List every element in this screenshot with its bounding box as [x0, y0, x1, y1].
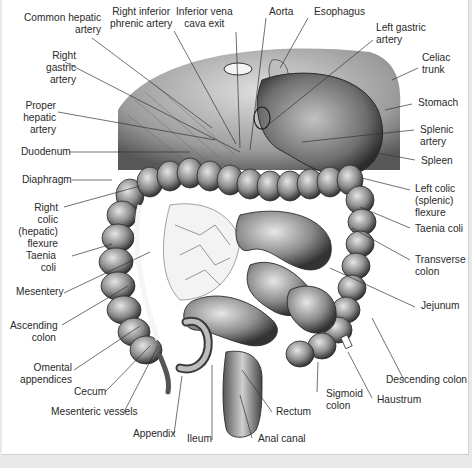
- label-right-colic-flexure: Right colic (hepatic) flexure: [12, 202, 58, 250]
- label-duodenum: Duodenum: [21, 146, 71, 158]
- label-splenic-artery: Splenic artery: [420, 124, 453, 148]
- label-right-inferior-phrenic-artery: Right inferior phrenic artery: [110, 6, 172, 30]
- label-diaphragm: Diaphragm: [22, 174, 72, 186]
- descending-colon-shape: [286, 186, 376, 367]
- label-celiac-trunk: Celiac trunk: [422, 52, 450, 76]
- label-left-gastric-artery: Left gastric artery: [376, 22, 426, 46]
- label-rectum: Rectum: [276, 406, 311, 418]
- label-haustrum: Haustrum: [377, 394, 421, 406]
- label-spleen: Spleen: [421, 155, 453, 167]
- anatomy-figure: Common hepatic artery Right inferior phr…: [0, 0, 472, 468]
- rectum-shape: [223, 351, 262, 437]
- ascending-colon-shape: [99, 201, 162, 364]
- label-anal-canal: Anal canal: [258, 433, 306, 445]
- label-aorta: Aorta: [269, 6, 293, 18]
- label-right-gastric-artery: Right gastric artery: [30, 50, 76, 86]
- label-sigmoid-colon: Sigmoid colon: [326, 388, 363, 412]
- label-common-hepatic-artery: Common hepatic artery: [24, 12, 101, 36]
- label-cecum: Cecum: [74, 386, 106, 398]
- label-omental-appendices: Omental appendices: [20, 362, 72, 386]
- label-mesenteric-vessels: Mesenteric vessels: [51, 406, 138, 418]
- label-ascending-colon: Ascending colon: [10, 320, 56, 344]
- label-jejunum: Jejunum: [421, 300, 460, 312]
- label-inferior-vena-cava-exit: Inferior vena cava exit: [176, 6, 233, 30]
- label-ileum: Ileum: [187, 433, 212, 445]
- label-left-colic-flexure: Left colic (splenic) flexure: [415, 183, 455, 219]
- label-proper-hepatic-artery: Proper hepatic artery: [16, 100, 56, 136]
- label-descending-colon: Descending colon: [386, 374, 467, 386]
- ivc-opening: [224, 63, 252, 75]
- label-esophagus: Esophagus: [314, 6, 365, 18]
- label-mesentery: Mesentery: [16, 286, 64, 298]
- label-appendix: Appendix: [133, 428, 175, 440]
- label-stomach: Stomach: [418, 97, 458, 109]
- label-transverse-colon: Transverse colon: [415, 254, 466, 278]
- label-taenia-coli-right: Taenia coli: [415, 223, 463, 235]
- label-taenia-coli-left: Taenia coli: [26, 250, 56, 274]
